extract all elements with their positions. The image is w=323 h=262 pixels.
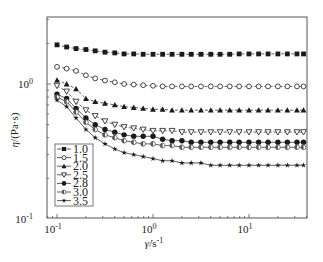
triangle-down-marker-icon [102,119,108,124]
filled-circle-marker-icon [227,140,232,145]
square-marker-icon [141,52,146,57]
circle-open-marker-icon [256,84,261,89]
filled-circle-marker-icon [112,129,117,134]
square-marker-icon [62,147,66,151]
filled-circle-marker-icon [169,138,174,143]
viscosity-chart: 10-110010110-1100 1.01.52.02.52.83.03.5 … [0,0,323,262]
square-marker-icon [83,47,88,52]
circle-open-marker-icon [170,84,175,89]
square-marker-icon [131,52,136,57]
triangle-up-marker-icon [54,77,60,82]
filled-circle-marker-icon [121,132,126,137]
circle-open-marker-icon [55,64,60,69]
circle-open-marker-icon [266,84,271,89]
circle-open-marker-icon [131,82,136,87]
star-marker-icon [121,150,127,155]
filled-circle-marker-icon [102,127,107,132]
y-axis-title: η/(Pa·s) [8,112,21,147]
circle-open-marker-icon [141,83,146,88]
series-2-0 [54,77,306,112]
triangle-down-marker-icon [54,83,60,88]
circle-open-marker-icon [285,84,290,89]
x-axis-title: γ̇/s-1 [145,236,163,249]
square-marker-icon [208,52,213,57]
square-marker-icon [160,52,165,57]
triangle-down-marker-icon [83,108,89,113]
square-marker-icon [103,50,108,55]
filled-circle-marker-icon [265,140,270,145]
square-marker-icon [64,45,69,50]
square-marker-icon [151,52,156,57]
circle-open-marker-icon [103,78,108,83]
square-marker-icon [237,52,242,57]
series-1-5 [55,64,306,88]
triangle-down-marker-icon [227,130,233,135]
circle-open-marker-icon [62,156,66,160]
triangle-down-marker-icon [217,130,223,135]
square-marker-icon [74,46,79,51]
filled-circle-marker-icon [93,122,98,127]
filled-circle-marker-icon [179,138,184,143]
circle-open-marker-icon [93,76,98,81]
square-marker-icon [218,52,223,57]
x-tick-label: 100 [142,222,157,235]
circle-open-marker-icon [247,84,252,89]
circle-open-marker-icon [218,84,223,89]
square-marker-icon [199,52,204,57]
circle-open-marker-icon [151,83,156,88]
square-marker-icon [170,52,175,57]
circle-open-marker-icon [199,84,204,89]
filled-circle-marker-icon [208,140,213,145]
square-marker-icon [122,52,127,57]
filled-circle-marker-icon [236,140,241,145]
star-marker-icon [102,141,108,146]
square-marker-icon [275,52,280,57]
series-1-0 [55,42,306,56]
circle-open-marker-icon [237,84,242,89]
filled-circle-marker-icon [301,140,306,145]
square-marker-icon [227,52,232,57]
square-marker-icon [266,52,271,57]
filled-circle-marker-icon [198,140,203,145]
circle-open-marker-icon [64,66,69,71]
triangle-up-marker-icon [198,107,204,112]
circle-open-marker-icon [160,84,165,89]
circle-open-marker-icon [122,82,127,87]
triangle-down-marker-icon [64,89,70,94]
filled-circle-marker-icon [140,134,145,139]
square-marker-icon [256,52,261,57]
y-tick-label: 100 [18,77,33,90]
filled-circle-marker-icon [131,134,136,139]
triangle-up-marker-icon [73,86,79,91]
x-tick-label: 101 [238,222,253,235]
circle-open-marker-icon [295,84,300,89]
square-marker-icon [189,52,194,57]
filled-circle-marker-icon [285,140,290,145]
filled-circle-marker-icon [217,140,222,145]
square-marker-icon [179,52,184,57]
filled-circle-marker-icon [189,140,194,145]
filled-circle-marker-icon [160,137,165,142]
legend-label: 3.5 [73,194,88,208]
square-marker-icon [55,42,60,47]
circle-open-marker-icon [112,80,117,85]
star-marker-icon [112,146,118,151]
circle-open-marker-icon [208,84,213,89]
square-marker-icon [295,52,300,57]
filled-circle-marker-icon [294,140,299,145]
circle-open-marker-icon [179,84,184,89]
square-marker-icon [112,50,117,55]
star-marker-icon [64,104,70,109]
triangle-up-marker-icon [188,107,194,112]
triangle-up-marker-icon [64,81,70,86]
series-2-8 [54,92,306,145]
filled-circle-marker-icon [246,140,251,145]
circle-open-marker-icon [227,84,232,89]
legend: 1.01.52.02.52.83.03.5 [55,142,93,208]
filled-circle-marker-icon [150,134,155,139]
circle-open-marker-icon [301,84,306,89]
square-marker-icon [247,52,252,57]
filled-circle-marker-icon [275,140,280,145]
square-marker-icon [93,48,98,53]
y-tick-label: 10-1 [15,212,33,225]
